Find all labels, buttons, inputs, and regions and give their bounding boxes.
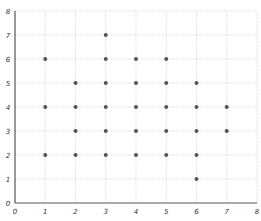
y-tick-label: 0: [6, 200, 11, 208]
data-point: [104, 153, 108, 157]
data-point: [195, 105, 199, 109]
data-point: [225, 129, 229, 133]
x-axis-ticks: 012345678: [13, 208, 260, 216]
x-tick-label: 7: [225, 208, 230, 216]
data-point: [134, 105, 138, 109]
y-tick-label: 1: [6, 176, 10, 184]
data-point: [195, 129, 199, 133]
data-point: [104, 81, 108, 85]
data-point: [74, 153, 78, 157]
y-tick-label: 3: [6, 128, 10, 136]
data-point: [104, 57, 108, 61]
data-point: [43, 153, 47, 157]
scatter-chart: 012345678 012345678: [0, 0, 261, 221]
y-tick-label: 8: [6, 8, 11, 16]
data-point: [74, 129, 78, 133]
data-point: [225, 105, 229, 109]
y-tick-label: 4: [6, 104, 10, 112]
y-tick-label: 5: [6, 80, 11, 88]
data-point: [164, 153, 168, 157]
x-tick-label: 8: [255, 208, 260, 216]
data-point: [195, 81, 199, 85]
data-point: [43, 57, 47, 61]
data-point: [164, 81, 168, 85]
data-point: [134, 57, 138, 61]
x-tick-label: 4: [134, 208, 138, 216]
x-tick-label: 6: [194, 208, 199, 216]
data-point: [164, 57, 168, 61]
data-point: [195, 177, 199, 181]
data-point: [74, 105, 78, 109]
data-point: [195, 153, 199, 157]
data-point: [43, 105, 47, 109]
x-tick-label: 5: [164, 208, 169, 216]
y-tick-label: 7: [6, 32, 11, 40]
y-tick-label: 6: [6, 56, 11, 64]
data-point: [164, 105, 168, 109]
data-point: [74, 81, 78, 85]
data-point: [104, 129, 108, 133]
data-point: [104, 105, 108, 109]
data-point: [134, 81, 138, 85]
data-point: [134, 129, 138, 133]
x-tick-label: 1: [43, 208, 47, 216]
data-point: [164, 129, 168, 133]
x-tick-label: 2: [73, 208, 78, 216]
y-axis-ticks: 012345678: [6, 8, 11, 208]
data-point: [104, 33, 108, 37]
y-tick-label: 2: [6, 152, 11, 160]
x-tick-label: 0: [13, 208, 18, 216]
data-point: [134, 153, 138, 157]
x-tick-label: 3: [104, 208, 108, 216]
